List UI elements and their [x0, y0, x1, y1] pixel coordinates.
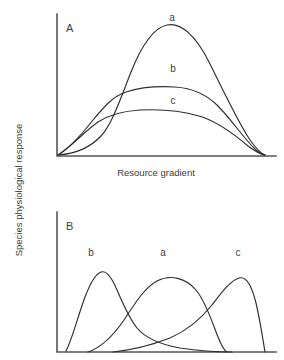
panel-a-curve-label-c: c — [171, 95, 176, 106]
panel-a-curve-b — [58, 87, 265, 155]
panel-b: B b a c — [57, 212, 276, 352]
y-axis-label: Species physiological response — [13, 124, 24, 257]
panel-a-label: A — [66, 22, 74, 34]
panel-a: A a b c Resource gradient — [57, 12, 276, 178]
panel-b-curve-label-b: b — [88, 247, 94, 258]
panel-b-curve-label-a: a — [160, 247, 166, 258]
panel-a-curve-c — [58, 110, 265, 155]
panel-b-curve-a — [88, 278, 227, 352]
panel-a-axes — [57, 14, 276, 156]
species-response-figure: Species physiological response A a b c R… — [0, 0, 284, 360]
panel-a-x-axis-label: Resource gradient — [117, 167, 195, 178]
panel-b-label: B — [66, 220, 73, 232]
figure-container: Species physiological response A a b c R… — [0, 0, 284, 360]
panel-a-curve-label-a: a — [169, 12, 175, 23]
panel-b-curve-b — [66, 272, 232, 352]
panel-b-curve-label-c: c — [236, 247, 241, 258]
panel-b-curve-c — [113, 278, 265, 352]
panel-b-axes — [57, 212, 276, 352]
panel-a-curve-label-b: b — [170, 63, 176, 74]
